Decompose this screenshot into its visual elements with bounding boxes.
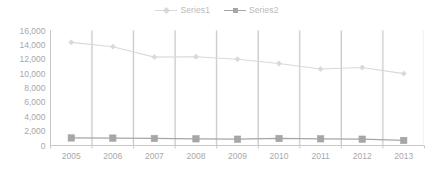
x-tick-label: 2006 <box>103 151 122 161</box>
data-point-marker <box>234 136 240 142</box>
y-tick-label: 10,000 <box>20 69 46 79</box>
x-tick-label: 2005 <box>62 151 81 161</box>
x-tick-label: 2007 <box>145 151 164 161</box>
data-point-marker <box>151 135 157 141</box>
data-point-marker <box>359 136 365 142</box>
data-point-marker <box>401 71 406 76</box>
axis-lines <box>51 30 425 149</box>
data-point-marker <box>276 135 282 141</box>
x-tick-label: 2009 <box>228 151 247 161</box>
data-point-marker <box>318 66 323 71</box>
data-point-marker <box>152 54 157 59</box>
x-tick-label: 2008 <box>186 151 205 161</box>
y-tick-label: 14,000 <box>20 40 46 50</box>
data-point-marker <box>359 65 364 70</box>
data-point-marker <box>68 135 74 141</box>
y-axis-labels: 02,0004,0006,0008,00010,00012,00014,0001… <box>20 26 46 151</box>
x-tick-label: 2012 <box>353 151 372 161</box>
data-point-marker <box>69 40 74 45</box>
x-tick-label: 2011 <box>311 151 330 161</box>
y-tick-label: 6,000 <box>24 97 46 107</box>
series-series2 <box>68 135 407 144</box>
plot-svg: 02,0004,0006,0008,00010,00012,00014,0001… <box>0 0 434 173</box>
y-tick-label: 8,000 <box>24 83 46 93</box>
x-tick-label: 2013 <box>394 151 413 161</box>
line-chart: Series1 Series2 02,0004,0006,0008,00010,… <box>0 0 434 173</box>
data-series-group <box>68 40 407 144</box>
data-point-marker <box>317 136 323 142</box>
y-tick-label: 16,000 <box>20 26 46 36</box>
y-tick-label: 2,000 <box>24 126 46 136</box>
gridlines <box>91 31 423 146</box>
data-point-marker <box>110 44 115 49</box>
series-series1 <box>69 40 407 77</box>
y-tick-label: 12,000 <box>20 54 46 64</box>
x-tick-label: 2010 <box>270 151 289 161</box>
data-point-marker <box>193 136 199 142</box>
y-tick-label: 4,000 <box>24 112 46 122</box>
x-axis-labels: 200520062007200820092010201120122013 <box>62 151 414 161</box>
y-tick-label: 0 <box>41 141 46 151</box>
data-point-marker <box>401 137 407 143</box>
data-point-marker <box>235 57 240 62</box>
plot-area: 02,0004,0006,0008,00010,00012,00014,0001… <box>0 0 434 173</box>
data-point-marker <box>276 61 281 66</box>
data-point-marker <box>193 54 198 59</box>
data-point-marker <box>110 135 116 141</box>
